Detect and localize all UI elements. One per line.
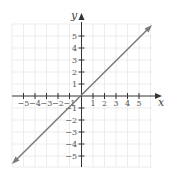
x-tick-label: −5 xyxy=(18,99,30,108)
x-tick-label: 1 xyxy=(90,99,95,108)
y-tick-label: −2 xyxy=(65,116,77,125)
coordinate-plane: −5 −4 −3 −2 −1 1 2 3 4 5 x 5 4 3 2 1 xyxy=(0,0,170,178)
x-tick-label: 4 xyxy=(125,99,130,108)
y-tick-label: 1 xyxy=(72,80,77,89)
y-axis-label: y xyxy=(70,9,78,22)
x-tick-label: 2 xyxy=(102,99,107,108)
x-tick-label: −2 xyxy=(52,99,64,108)
y-tick-label: 3 xyxy=(72,56,77,65)
y-tick-label: −3 xyxy=(65,128,77,137)
x-axis-label: x xyxy=(158,96,165,109)
x-tick-label: −4 xyxy=(29,99,41,108)
y-tick-label: −5 xyxy=(65,152,77,161)
y-tick-label: 4 xyxy=(72,44,77,53)
y-axis-arrow-icon xyxy=(79,13,85,20)
x-tick-label: 3 xyxy=(113,99,118,108)
y-axis: 5 4 3 2 1 −1 −2 −3 −4 −5 y xyxy=(65,9,84,167)
y-tick-label: 5 xyxy=(72,32,77,41)
x-axis: −5 −4 −3 −2 −1 1 2 3 4 5 x xyxy=(12,93,165,109)
x-tick-label: 5 xyxy=(136,99,141,108)
y-tick-label: 2 xyxy=(72,68,77,77)
x-tick-label: −3 xyxy=(41,99,53,108)
y-tick-label: −4 xyxy=(65,140,77,149)
